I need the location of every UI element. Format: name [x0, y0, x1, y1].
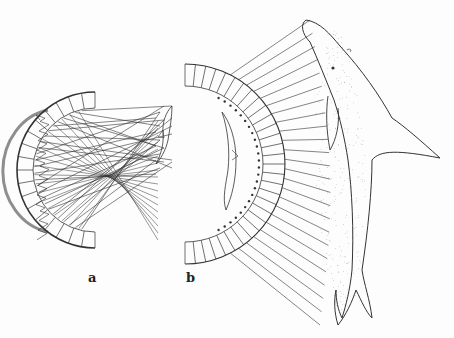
- stipple: [349, 76, 350, 77]
- stipple: [342, 98, 343, 99]
- ray-b: [284, 150, 329, 153]
- ring-stroke: [261, 180, 283, 185]
- stipple: [336, 305, 337, 306]
- stipple: [333, 259, 334, 260]
- stipple: [347, 108, 348, 109]
- stipple: [337, 52, 338, 53]
- stipple: [319, 188, 320, 189]
- stipple: [365, 196, 366, 197]
- stipple: [348, 262, 349, 263]
- ring-stroke: [68, 228, 73, 243]
- ring-stroke: [27, 131, 41, 139]
- stipple: [351, 86, 352, 87]
- stipple: [338, 144, 339, 145]
- stipple: [343, 185, 344, 186]
- ray-b: [279, 126, 326, 131]
- stipple: [326, 264, 327, 265]
- ring-stroke: [35, 120, 47, 130]
- stipple: [340, 77, 341, 78]
- ring-stroke: [209, 69, 216, 90]
- stipple: [328, 269, 329, 270]
- stipple: [331, 273, 332, 274]
- ring-stroke: [201, 66, 206, 88]
- stipple: [361, 128, 362, 129]
- stipple: [335, 156, 336, 157]
- stipple: [326, 212, 327, 213]
- ray-b: [285, 169, 330, 179]
- arrowhead-b: [257, 173, 259, 175]
- arrowhead-b: [254, 187, 256, 189]
- stipple: [341, 192, 342, 193]
- stipple: [351, 180, 352, 181]
- ray-a: [54, 142, 158, 215]
- stipple: [321, 229, 322, 230]
- stipple: [342, 48, 343, 49]
- stipple: [342, 47, 343, 48]
- ring-stroke: [18, 156, 34, 159]
- stipple: [326, 47, 327, 48]
- stipple: [330, 130, 331, 131]
- stipple: [343, 285, 344, 286]
- stipple: [358, 129, 359, 130]
- stipple: [344, 129, 345, 130]
- ray-b: [239, 33, 313, 79]
- stipple: [344, 180, 345, 181]
- stipple: [323, 182, 324, 183]
- stipple: [347, 105, 348, 106]
- ring-stroke: [56, 224, 64, 238]
- arrowhead-b: [256, 145, 258, 147]
- stipple: [335, 111, 336, 112]
- stipple: [332, 49, 333, 50]
- stipple: [362, 181, 363, 182]
- stipple: [358, 215, 359, 216]
- stipple: [359, 176, 360, 177]
- image-dolphin-b: [222, 112, 236, 210]
- stipple: [326, 253, 327, 254]
- stipple: [338, 272, 339, 273]
- stipple: [347, 132, 348, 133]
- stipple: [320, 160, 321, 161]
- stipple: [365, 189, 366, 190]
- arrowhead-b: [235, 109, 237, 111]
- stipple: [329, 57, 330, 58]
- stipple: [334, 31, 335, 32]
- arrowhead-b: [217, 97, 219, 99]
- stipple: [322, 175, 323, 176]
- arrowhead-b: [248, 200, 250, 202]
- ring-stroke: [201, 240, 206, 262]
- stipple: [329, 63, 330, 64]
- ray-b: [279, 197, 329, 219]
- stipple: [362, 163, 363, 164]
- arrowhead-b: [251, 194, 253, 196]
- arrowhead-b: [257, 152, 259, 154]
- stipple: [341, 293, 342, 294]
- stipple: [340, 193, 341, 194]
- stipple: [330, 151, 331, 152]
- ring-stroke: [253, 114, 272, 125]
- ring-stroke: [217, 73, 226, 93]
- stipple: [361, 144, 362, 145]
- ray-a: [75, 112, 160, 126]
- stipple: [353, 295, 354, 296]
- stipple: [335, 220, 336, 221]
- ray-b: [260, 73, 319, 98]
- stipple: [351, 79, 352, 80]
- stipple: [356, 135, 357, 136]
- stipple: [324, 203, 325, 204]
- stipple: [321, 213, 322, 214]
- arrowhead-b: [251, 132, 253, 134]
- stipple: [347, 237, 348, 238]
- stipple: [355, 218, 356, 219]
- stipple: [358, 112, 359, 113]
- figure: a b: [0, 0, 454, 338]
- stipple: [328, 233, 329, 234]
- stipple: [334, 60, 335, 61]
- ring-stroke: [243, 97, 259, 112]
- stipple: [352, 169, 353, 170]
- stipple: [362, 144, 363, 145]
- stipple: [341, 251, 342, 252]
- stipple: [340, 107, 341, 108]
- stipple: [335, 171, 336, 172]
- stipple: [341, 127, 342, 128]
- stipple: [344, 82, 345, 83]
